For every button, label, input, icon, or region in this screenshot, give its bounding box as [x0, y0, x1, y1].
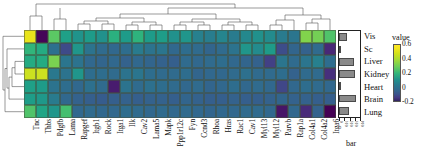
heatmap-cell [312, 93, 324, 106]
heatmap-cell [312, 43, 324, 56]
heatmap-cell [156, 105, 168, 118]
side-bar-title: bar [338, 139, 364, 148]
heatmap-cell [60, 105, 72, 118]
heatmap-cell [108, 93, 120, 106]
column-label: Ppp1r12c [177, 119, 184, 147]
heatmap-cell [216, 68, 228, 81]
heatmap-cell [264, 43, 276, 56]
heatmap-cell [204, 105, 216, 118]
heatmap-cell [48, 30, 60, 43]
heatmap-cell [48, 80, 60, 93]
heatmap-cell [300, 93, 312, 106]
heatmap-cell [96, 68, 108, 81]
heatmap-cell [72, 68, 84, 81]
column-label: Thbs [45, 119, 52, 133]
legend-tick-label: -0.2 [402, 98, 414, 105]
heatmap-cell [120, 30, 132, 43]
heatmap-cell [168, 30, 180, 43]
heatmap-cell [108, 30, 120, 43]
heatmap-cell [276, 68, 288, 81]
heatmap-cell [204, 80, 216, 93]
heatmap-cell [132, 80, 144, 93]
heatmap-cell [192, 30, 204, 43]
heatmap-cell [204, 30, 216, 43]
heatmap-cell [180, 105, 192, 118]
legend-tick-label: 0 [402, 84, 406, 91]
heatmap-cell [300, 30, 312, 43]
heatmap-cell [84, 30, 96, 43]
side-bar-row [339, 31, 360, 43]
side-bar-row [339, 43, 360, 55]
side-bar-row [339, 80, 360, 92]
heatmap-cell [252, 80, 264, 93]
heatmap-cell [96, 80, 108, 93]
heatmap-cell [288, 43, 300, 56]
heatmap-cell [144, 68, 156, 81]
heatmap-cell [264, 93, 276, 106]
heatmap-cell [156, 80, 168, 93]
side-bar [339, 95, 356, 103]
heatmap-cell [60, 43, 72, 56]
heatmap-cell [180, 93, 192, 106]
heatmap-cell [120, 55, 132, 68]
heatmap-cell [252, 68, 264, 81]
column-label: Col4a2 [321, 119, 328, 140]
column-label: Col4a1 [309, 119, 316, 140]
column-label: Tnc [33, 119, 40, 130]
column-label: Itgb1 [93, 119, 100, 134]
heatmap-cell [96, 43, 108, 56]
legend-tick-label: 0.2 [402, 69, 411, 76]
heatmap-cell [36, 68, 48, 81]
heatmap-cell [132, 68, 144, 81]
heatmap-cell [180, 80, 192, 93]
heatmap-cell [252, 55, 264, 68]
heatmap-cell [252, 105, 264, 118]
heatmap-cell [240, 30, 252, 43]
heatmap-cell [168, 80, 180, 93]
heatmap-cell [84, 80, 96, 93]
side-bar [339, 58, 354, 66]
heatmap-cell [228, 93, 240, 106]
heatmap-cell [84, 68, 96, 81]
heatmap-cell [24, 55, 36, 68]
heatmap-cell [132, 105, 144, 118]
heatmap-cell [252, 43, 264, 56]
heatmap-cell [180, 68, 192, 81]
heatmap-cell [240, 105, 252, 118]
column-labels: TncThbsPdgfbLamaRapgefItgb1RockItga1IlkC… [24, 119, 336, 166]
side-bar [339, 46, 341, 54]
heatmap-cell [192, 93, 204, 106]
heatmap-cell [228, 55, 240, 68]
heatmap-cell [276, 43, 288, 56]
heatmap-cell [324, 43, 336, 56]
axis-tick-label: 0 [341, 121, 344, 123]
heatmap-cell [192, 105, 204, 118]
column-label: Cav2 [141, 119, 148, 134]
side-bar-chart [338, 30, 361, 118]
heatmap-cell [84, 55, 96, 68]
heatmap-cell [180, 55, 192, 68]
heatmap-figure: TncThbsPdgfbLamaRapgefItgb1RockItga1IlkC… [0, 0, 429, 166]
column-label: Rap1a [297, 119, 304, 137]
heatmap-cell [144, 93, 156, 106]
heatmap-cell [60, 68, 72, 81]
column-label: Ccnd3 [201, 119, 208, 138]
heatmap-cell [72, 43, 84, 56]
heatmap-cell [36, 93, 48, 106]
heatmap-cell [36, 55, 48, 68]
heatmap-cell [156, 55, 168, 68]
heatmap-cell [96, 30, 108, 43]
heatmap-cell [24, 105, 36, 118]
heatmap-cell [48, 55, 60, 68]
heatmap-cell [192, 68, 204, 81]
heatmap-cell [276, 80, 288, 93]
heatmap-cell [108, 105, 120, 118]
heatmap-cell [312, 55, 324, 68]
side-bar-row [339, 105, 360, 117]
column-label: Ilk [129, 119, 136, 127]
column-label: Rhoa [213, 119, 220, 134]
heatmap-cell [300, 80, 312, 93]
column-label: Rapgef [81, 119, 88, 140]
heatmap-cell [120, 43, 132, 56]
heatmap-cell [132, 30, 144, 43]
